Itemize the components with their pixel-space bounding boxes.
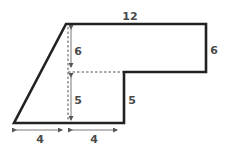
label-upper-inner-height: 6 [74,45,82,58]
label-bottom-right-width: 4 [90,133,98,146]
label-top-width: 12 [122,10,137,23]
label-notch-height: 5 [128,94,136,107]
label-bottom-left-width: 4 [36,133,44,146]
label-lower-inner-height: 5 [74,94,82,107]
label-right-height: 6 [210,44,218,57]
composite-shape-diagram: 12 6 6 5 5 4 4 [0,0,225,147]
shape-outline [14,24,206,123]
